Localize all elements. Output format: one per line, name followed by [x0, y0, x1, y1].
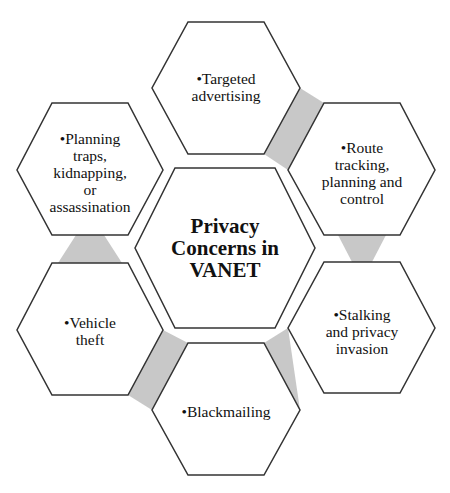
node-targeted-advertising: •Targeted advertising [165, 62, 287, 112]
node-text-line: or [50, 181, 131, 198]
connector-route-to-stalking [338, 235, 386, 262]
node-text-line: kidnapping, [50, 164, 131, 181]
node-text-line: assassination [50, 198, 131, 215]
node-blackmailing: •Blackmailing [160, 396, 292, 426]
node-text-line: traps, [50, 147, 131, 164]
node-text-line: •Blackmailing [182, 403, 271, 420]
privacy-concerns-diagram: Privacy Concerns in VANET •Targeted adve… [0, 0, 450, 493]
center-title-line-2: Concerns in [171, 237, 279, 259]
node-text-line: control [322, 190, 403, 207]
node-text-line: tracking, [322, 156, 403, 173]
node-planning-traps: •Planning traps, kidnapping, or assassin… [26, 118, 154, 226]
node-text-line: •Targeted [192, 70, 261, 87]
node-stalking: •Stalking and privacy invasion [298, 296, 426, 366]
connector-vehicle-to-planning [58, 235, 122, 263]
node-text-line: •Route [322, 139, 403, 156]
node-text-line: theft [64, 331, 116, 348]
node-route-tracking: •Route tracking, planning and control [298, 128, 426, 218]
node-text-line: advertising [192, 87, 261, 104]
node-text-line: planning and [322, 173, 403, 190]
center-title-line-3: VANET [171, 259, 279, 281]
node-text-line: •Planning [50, 130, 131, 147]
node-text-line: •Stalking [326, 306, 399, 323]
node-text-line: and privacy [326, 323, 399, 340]
node-vehicle-theft: •Vehicle theft [26, 306, 154, 356]
node-text-line: invasion [326, 340, 399, 357]
center-title-line-1: Privacy [171, 215, 279, 237]
center-title: Privacy Concerns in VANET [150, 200, 300, 296]
node-text-line: •Vehicle [64, 314, 116, 331]
